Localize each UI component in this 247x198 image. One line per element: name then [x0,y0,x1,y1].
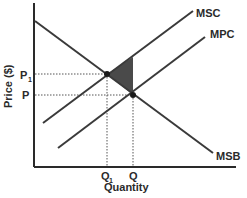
msb-label: MSB [216,150,241,162]
externality-diagram: MSC MPC MSB P 1 P Q 1 Q Quantity Price (… [0,0,247,198]
msc-label: MSC [196,7,221,19]
y-axis-title: Price ($) [2,64,14,108]
x-axis-title: Quantity [104,181,149,193]
social-optimum-dot [104,71,110,77]
p-label: P [22,89,29,101]
deadweight-loss-triangle [107,57,133,95]
mpc-label: MPC [210,28,235,40]
msc-curve [43,11,193,123]
market-equilibrium-dot [130,92,136,98]
p1-label: P [20,69,27,81]
msb-curve [35,21,213,153]
p1-subscript: 1 [28,76,32,83]
